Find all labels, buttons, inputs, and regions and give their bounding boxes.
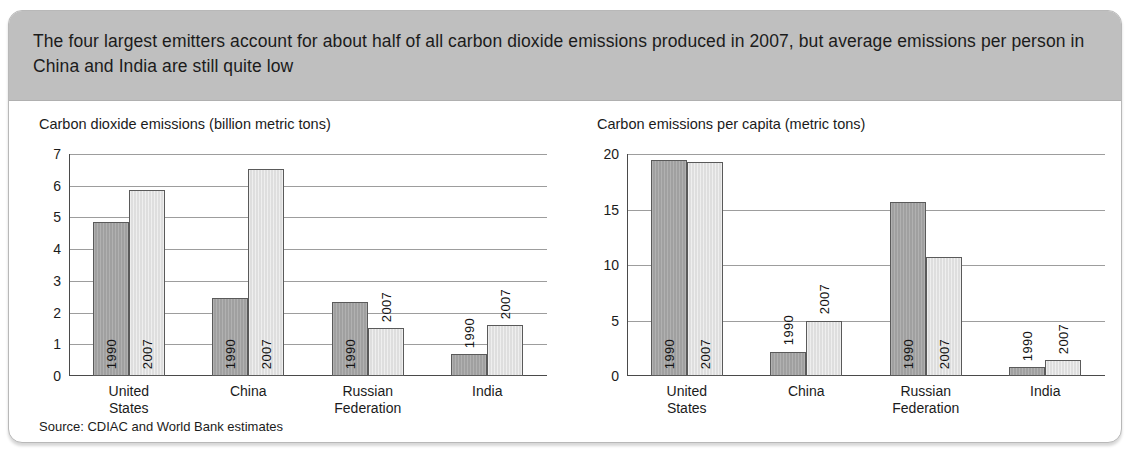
bar-year-label: 1990 <box>342 339 357 369</box>
x-axis-category-label: United States <box>69 383 189 417</box>
y-axis-tick-label: 3 <box>53 273 61 289</box>
bar-1990[interactable]: 1990 <box>212 298 248 376</box>
bar-2007[interactable]: 2007 <box>926 257 962 376</box>
bar-2007[interactable]: 2007 <box>687 162 723 376</box>
bar-group: 19902007 <box>627 154 747 376</box>
y-axis-tick-label: 6 <box>53 177 61 193</box>
y-axis-tick-label: 15 <box>603 201 619 217</box>
source-note: Source: CDIAC and World Bank estimates <box>39 419 283 434</box>
chart-title-per-capita: Carbon emissions per capita (metric tons… <box>597 116 865 132</box>
x-axis-category-label: Russian Federation <box>308 383 428 417</box>
y-axis-tick-label: 5 <box>53 209 61 225</box>
bar-1990[interactable]: 1990 <box>651 160 687 376</box>
bar-2007[interactable]: 2007 <box>248 169 284 376</box>
y-axis-tick-label: 5 <box>611 312 619 328</box>
bar-year-label: 2007 <box>936 339 951 369</box>
figure-root: The four largest emitters account for ab… <box>0 0 1132 454</box>
chart-panel-per-capita: Carbon emissions per capita (metric tons… <box>585 102 1122 432</box>
bar-year-label: 2007 <box>1056 324 1071 354</box>
bar-year-label: 1990 <box>781 315 796 345</box>
bar-2007[interactable] <box>806 321 842 377</box>
bar-group: 19902007 <box>866 154 986 376</box>
y-axis-tick-label: 20 <box>603 146 619 162</box>
y-axis-tick-label: 7 <box>53 146 61 162</box>
bar-year-label: 2007 <box>817 284 832 314</box>
y-axis-tick-label: 2 <box>53 304 61 320</box>
bar-year-label: 2007 <box>697 339 712 369</box>
x-axis-category-label: China <box>189 383 309 400</box>
bar-2007[interactable] <box>487 325 523 376</box>
bar-1990[interactable] <box>770 352 806 376</box>
x-axis-category-label: United States <box>627 383 747 417</box>
plot-area-total-emissions: 01234567United States19902007China199020… <box>69 154 547 376</box>
y-axis-tick-label: 10 <box>603 257 619 273</box>
bar-group: 19902007 <box>428 154 548 376</box>
bar-group: 19902007 <box>747 154 867 376</box>
bar-year-label: 1990 <box>900 339 915 369</box>
bar-year-label: 2007 <box>259 339 274 369</box>
bar-2007[interactable] <box>368 328 404 376</box>
bar-year-label: 1990 <box>1020 331 1035 361</box>
bar-1990[interactable] <box>451 354 487 376</box>
bar-year-label: 1990 <box>661 339 676 369</box>
bar-year-label: 1990 <box>103 339 118 369</box>
bar-group: 19902007 <box>69 154 189 376</box>
bar-1990[interactable]: 1990 <box>332 302 368 376</box>
bar-1990[interactable]: 1990 <box>93 222 129 376</box>
bar-group: 19902007 <box>986 154 1106 376</box>
plot-area-per-capita: 05101520United States19902007China199020… <box>627 154 1105 376</box>
y-axis-tick-label: 4 <box>53 241 61 257</box>
y-axis-tick-label: 0 <box>611 368 619 384</box>
bar-group: 19902007 <box>189 154 309 376</box>
bar-1990[interactable] <box>1009 367 1045 376</box>
x-axis-category-label: China <box>747 383 867 400</box>
chart-title-total-emissions: Carbon dioxide emissions (billion metric… <box>39 116 331 132</box>
y-axis-tick-label: 1 <box>53 336 61 352</box>
x-axis-category-label: India <box>428 383 548 400</box>
bar-1990[interactable]: 1990 <box>890 202 926 376</box>
bar-year-label: 2007 <box>378 292 393 322</box>
y-axis-tick-label: 0 <box>53 368 61 384</box>
chart-panel-total-emissions: Carbon dioxide emissions (billion metric… <box>27 102 567 432</box>
bar-year-label: 2007 <box>498 289 513 319</box>
bar-year-label: 2007 <box>139 339 154 369</box>
figure-header-band: The four largest emitters account for ab… <box>9 11 1121 101</box>
bar-year-label: 1990 <box>223 339 238 369</box>
bar-year-label: 1990 <box>462 318 477 348</box>
x-axis-category-label: Russian Federation <box>866 383 986 417</box>
figure-card: The four largest emitters account for ab… <box>8 10 1122 443</box>
bar-2007[interactable]: 2007 <box>129 190 165 376</box>
bar-group: 19902007 <box>308 154 428 376</box>
x-axis-category-label: India <box>986 383 1106 400</box>
figure-headline: The four largest emitters account for ab… <box>33 29 1089 79</box>
bar-2007[interactable] <box>1045 360 1081 376</box>
figure-body: Carbon dioxide emissions (billion metric… <box>9 102 1121 443</box>
